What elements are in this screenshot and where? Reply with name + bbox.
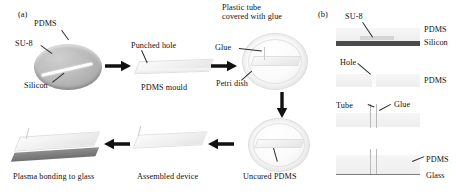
label-uncured-pdms: Uncured PDMS bbox=[243, 172, 297, 181]
arrow-left-1 bbox=[208, 138, 234, 150]
label-b-glass: Glass bbox=[426, 171, 445, 180]
label-punched-hole: Punched hole bbox=[131, 41, 176, 50]
b-glue-leader-line bbox=[379, 104, 391, 111]
assembled-device-graphic bbox=[133, 131, 208, 149]
figure-root: (a) PDMS SU-8 Silicon Punched hole PDMS … bbox=[0, 0, 456, 195]
b-tube-leader-line bbox=[368, 104, 375, 107]
label-plastic-tube: Plastic tube bbox=[222, 3, 261, 12]
label-b-hole: Hole bbox=[340, 58, 356, 67]
label-b-silicon: Silicon bbox=[424, 38, 448, 47]
b-row3-tube-left-wall bbox=[370, 104, 371, 128]
label-pdms-wafer: PDMS bbox=[34, 19, 57, 28]
uncured-pdms-dish-graphic bbox=[248, 118, 310, 172]
pdms-leader-line bbox=[61, 30, 69, 40]
label-plasma-bonding: Plasma bonding to glass bbox=[13, 172, 94, 181]
tube-in-dish-graphic bbox=[264, 47, 265, 60]
b-row1-su8-layer bbox=[360, 36, 394, 40]
arrow-right-1 bbox=[105, 60, 131, 72]
mould-in-dish-graphic bbox=[250, 56, 302, 66]
b-row2-hole-graphic bbox=[372, 74, 376, 87]
label-silicon-wafer: Silicon bbox=[24, 81, 48, 90]
b-row2-pdms-layer bbox=[336, 74, 420, 87]
b-row1-silicon-layer bbox=[336, 41, 420, 46]
label-covered-with-glue: covered with glue bbox=[222, 12, 282, 21]
label-b-pdms-row2: PDMS bbox=[424, 76, 447, 85]
arrow-left-2 bbox=[104, 138, 130, 150]
b-row4-tube-right-wall bbox=[376, 149, 377, 174]
label-assembled-device: Assembled device bbox=[137, 172, 198, 181]
label-b-su8: SU-8 bbox=[345, 12, 363, 21]
label-petri-dish: Petri dish bbox=[216, 79, 248, 88]
panel-b-tag: (b) bbox=[318, 10, 328, 19]
label-b-glue: Glue bbox=[394, 100, 410, 109]
b-hole-leader-line bbox=[358, 63, 371, 74]
b-row4-tube-left-wall bbox=[370, 149, 371, 174]
b-row3-pdms-layer bbox=[336, 113, 420, 127]
petri-dish-graphic bbox=[242, 33, 308, 90]
b-row4-pdms-layer bbox=[336, 155, 420, 174]
b-row3-tube-right-wall bbox=[376, 104, 377, 128]
label-su8-wafer: SU-8 bbox=[15, 39, 33, 48]
arrow-right-2 bbox=[211, 60, 237, 72]
label-b-pdms-row4: PDMS bbox=[426, 155, 449, 164]
label-glue-petri: Glue bbox=[215, 43, 231, 52]
panel-a-tag: (a) bbox=[18, 10, 27, 19]
label-pdms-mould: PDMS mould bbox=[141, 83, 187, 92]
b-row4-glass-layer bbox=[336, 174, 420, 175]
mould-under-pdms-graphic bbox=[254, 139, 304, 148]
arrow-down-1 bbox=[276, 92, 288, 118]
label-b-tube: Tube bbox=[336, 101, 353, 110]
su8-channel-graphic bbox=[41, 62, 92, 77]
label-b-pdms-row1: PDMS bbox=[424, 25, 447, 34]
